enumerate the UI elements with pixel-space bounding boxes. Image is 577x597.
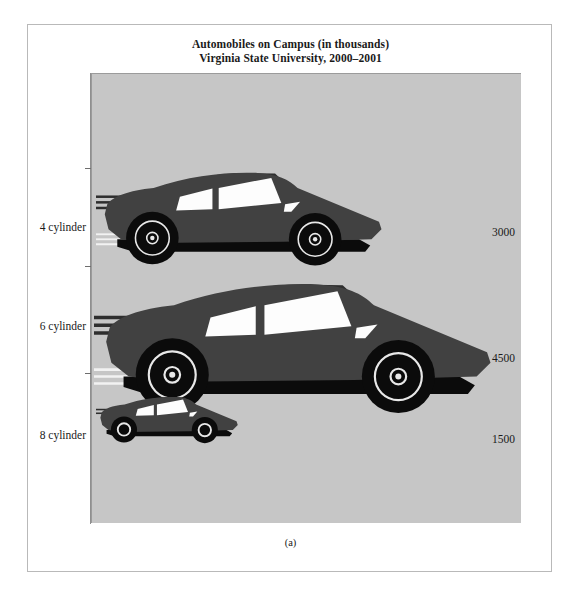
car-icon xyxy=(96,395,239,444)
car-wheel-rear xyxy=(192,417,218,443)
chart-title: Automobiles on Campus (in thousands) Vir… xyxy=(28,37,553,65)
car-wheel-rear xyxy=(362,340,435,413)
plot-area: 3000 4500 1500 xyxy=(91,73,521,523)
pictograph-car-4-cylinder xyxy=(96,169,384,267)
value-label-6-cylinder: 4500 xyxy=(492,352,515,364)
pictograph-car-8-cylinder xyxy=(96,395,239,444)
category-label-4-cylinder: 4 cylinder xyxy=(24,221,86,233)
figure-frame: Automobiles on Campus (in thousands) Vir… xyxy=(27,24,552,572)
category-label-8-cylinder: 8 cylinder xyxy=(24,429,86,441)
car-wheel-front xyxy=(111,416,137,442)
car-icon xyxy=(96,169,384,267)
chart-title-line-1: Automobiles on Campus (in thousands) xyxy=(192,38,389,50)
category-label-6-cylinder: 6 cylinder xyxy=(24,320,86,332)
car-wheel-rear xyxy=(289,213,342,266)
figure-caption: (a) xyxy=(28,537,553,548)
value-label-4-cylinder: 3000 xyxy=(492,226,515,238)
chart-title-line-2: Virginia State University, 2000–2001 xyxy=(28,51,553,65)
value-label-8-cylinder: 1500 xyxy=(492,433,515,445)
car-wheel-front xyxy=(126,212,179,265)
